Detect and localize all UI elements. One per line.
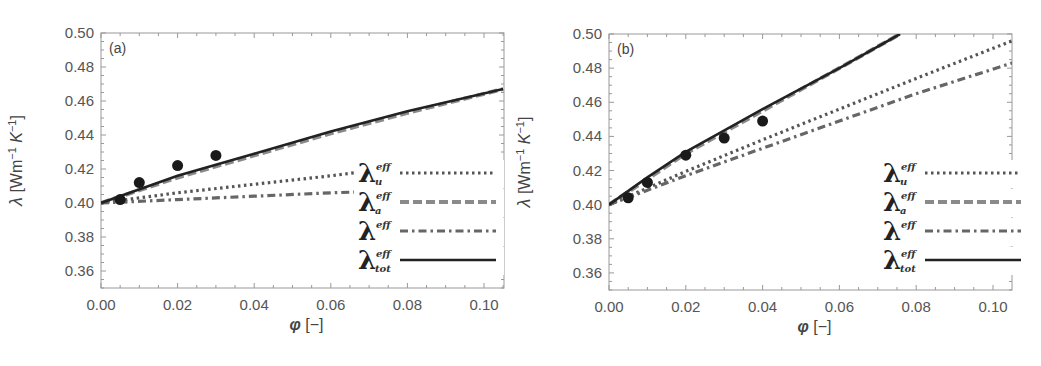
svg-text:tot: tot (375, 263, 391, 274)
svg-text:eff: eff (901, 219, 917, 230)
x-tick-label: 0.00 (86, 296, 115, 313)
x-tick-label: 0.06 (316, 296, 345, 313)
x-tick-label: 0.04 (240, 296, 269, 313)
y-axis-title: λ [Wm−1 K−1] (514, 117, 534, 209)
svg-text:λ: λ (883, 245, 901, 275)
svg-text:λ: λ (883, 158, 901, 188)
panel-label: (a) (109, 40, 126, 56)
x-axis-title: φ [−] (290, 316, 324, 333)
x-tick-label: 0.08 (902, 298, 931, 315)
y-tick-label: 0.50 (573, 25, 602, 42)
y-tick-label: 0.44 (65, 126, 94, 143)
x-tick-label: 0.02 (163, 296, 192, 313)
legend-item: λeffa (879, 187, 1029, 217)
y-tick-label: 0.46 (573, 93, 602, 110)
y-tick-label: 0.40 (65, 194, 94, 211)
series-line-solid (609, 34, 900, 205)
data-point-marker (719, 133, 730, 144)
y-tick-label: 0.38 (573, 230, 602, 247)
legend-item: λeffa (354, 187, 504, 217)
legend-item: λeff (354, 216, 504, 246)
chart-b-svg: 0.000.020.040.060.080.100.360.380.400.42… (508, 0, 1041, 366)
svg-text:eff: eff (376, 219, 392, 230)
y-tick-label: 0.38 (65, 228, 94, 245)
legend-item: λeffu (354, 158, 504, 188)
svg-text:λ: λ (358, 245, 376, 275)
svg-text:a: a (375, 205, 381, 216)
x-tick-label: 0.06 (825, 298, 854, 315)
svg-text:eff: eff (901, 190, 917, 201)
legend-item: λefftot (879, 245, 1029, 275)
legend-item: λeff (879, 216, 1029, 246)
svg-text:u: u (375, 176, 382, 187)
legend-item: λeffu (879, 158, 1029, 188)
y-tick-label: 0.48 (65, 58, 94, 75)
data-point-marker (757, 116, 768, 127)
y-tick-label: 0.44 (573, 127, 602, 144)
svg-text:eff: eff (376, 190, 392, 201)
legend-item: λefftot (354, 245, 504, 275)
data-point-marker (680, 150, 691, 161)
x-tick-label: 0.02 (671, 298, 700, 315)
y-tick-label: 0.42 (65, 160, 94, 177)
series-line-dash-dot (101, 192, 358, 203)
data-point-marker (172, 160, 183, 171)
data-point-marker (134, 177, 145, 188)
svg-text:eff: eff (376, 161, 392, 172)
x-tick-label: 0.10 (978, 298, 1007, 315)
x-tick-label: 0.10 (469, 296, 498, 313)
svg-text:eff: eff (901, 248, 917, 259)
x-axis-title: φ [−] (798, 318, 832, 335)
svg-text:λ: λ (358, 187, 376, 217)
y-tick-label: 0.36 (65, 262, 94, 279)
svg-text:eff: eff (901, 161, 917, 172)
chart-panel-b: 0.000.020.040.060.080.100.360.380.400.42… (508, 0, 1028, 366)
chart-a-svg: 0.000.020.040.060.080.100.360.380.400.42… (0, 0, 520, 366)
svg-text:u: u (900, 176, 907, 187)
data-point-marker (115, 194, 126, 205)
x-tick-label: 0.00 (594, 298, 623, 315)
panel-label: (b) (617, 41, 634, 57)
y-tick-label: 0.42 (573, 162, 602, 179)
y-tick-label: 0.46 (65, 92, 94, 109)
data-point-marker (642, 177, 653, 188)
svg-text:λ: λ (358, 216, 376, 246)
svg-text:eff: eff (376, 248, 392, 259)
data-point-marker (623, 192, 634, 203)
chart-panel-a: 0.000.020.040.060.080.100.360.380.400.42… (0, 0, 520, 366)
y-tick-label: 0.50 (65, 24, 94, 41)
svg-text:λ: λ (358, 158, 376, 188)
svg-text:tot: tot (900, 263, 916, 274)
svg-text:λ: λ (883, 187, 901, 217)
y-axis-title: λ [Wm−1 K−1] (6, 115, 26, 207)
data-point-marker (210, 150, 221, 161)
x-tick-label: 0.08 (393, 296, 422, 313)
y-tick-label: 0.40 (573, 196, 602, 213)
x-tick-label: 0.04 (748, 298, 777, 315)
y-tick-label: 0.48 (573, 59, 602, 76)
svg-text:λ: λ (883, 216, 901, 246)
svg-text:a: a (900, 205, 906, 216)
y-tick-label: 0.36 (573, 264, 602, 281)
